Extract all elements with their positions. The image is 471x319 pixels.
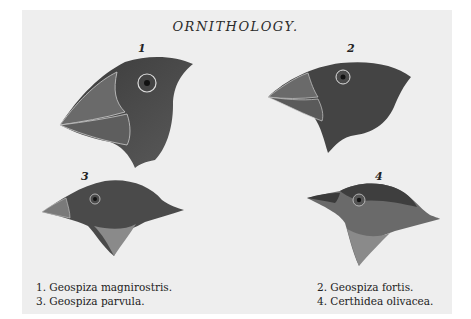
finch-head-geospiza-magnirostris (55, 50, 200, 170)
caption-1: 1. Geospiza magnirostris. (36, 280, 172, 294)
finch-head-geospiza-fortis (266, 55, 414, 155)
caption-4: 4. Certhidea olivacea. (317, 294, 433, 308)
plate-title: ORNITHOLOGY. (0, 19, 471, 34)
figure-number-2: 2 (347, 42, 355, 55)
finch-head-certhidea-olivacea (305, 181, 440, 266)
caption-left: 1. Geospiza magnirostris. 3. Geospiza pa… (36, 280, 172, 308)
caption-right: 2. Geospiza fortis. 4. Certhidea olivace… (317, 280, 433, 308)
caption-2: 2. Geospiza fortis. (317, 280, 433, 294)
finch-head-geospiza-parvula (40, 178, 185, 256)
caption-3: 3. Geospiza parvula. (36, 294, 172, 308)
